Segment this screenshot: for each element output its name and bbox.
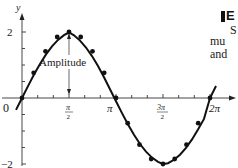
amplitude-arrow-down-icon <box>67 89 71 95</box>
y-axis-label: y <box>15 2 21 13</box>
svg-text:2: 2 <box>161 113 165 121</box>
x-tick-label-pi: π <box>107 102 113 114</box>
example-header-letter: E <box>226 8 235 23</box>
svg-text:2: 2 <box>67 113 71 121</box>
y-axis-arrow-icon <box>20 13 25 20</box>
x-ticks <box>38 94 210 98</box>
side-text-line-2: mu <box>210 34 225 48</box>
x-tick-label-pi-half: π 2 <box>65 103 73 121</box>
example-header-marker <box>221 11 225 22</box>
origin-label: 0 <box>3 101 9 115</box>
svg-text:3π: 3π <box>156 103 166 112</box>
y-tick-label-neg2: −2 <box>1 158 13 168</box>
sine-graph: y 2 −2 0 Amplitude π 2 π 3π 2 2π <box>0 0 238 168</box>
x-tick-label-three-pi-half: 3π 2 <box>156 103 168 121</box>
x-axis-arrow-icon <box>229 96 236 101</box>
x-tick-label-two-pi: 2π <box>209 102 221 114</box>
y-tick-label-2: 2 <box>7 26 13 38</box>
amplitude-label: Amplitude <box>39 56 86 68</box>
svg-text:π: π <box>66 103 71 112</box>
side-text-line-1: S <box>230 23 237 37</box>
side-text-line-3: and <box>210 47 227 61</box>
